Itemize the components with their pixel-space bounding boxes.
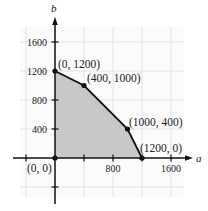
y-axis-label: b bbox=[51, 2, 57, 14]
x-tick-1600: 1600 bbox=[161, 163, 181, 174]
y-tick-1200: 1200 bbox=[27, 66, 47, 77]
label-1200-0: (1200, 0) bbox=[140, 142, 182, 155]
label-1000-400: (1000, 400) bbox=[129, 116, 183, 129]
y-tick-400: 400 bbox=[32, 124, 47, 135]
chart-svg: b a 1600 1200 800 400 800 1600 (0, 1200)… bbox=[0, 0, 208, 211]
y-tick-1600: 1600 bbox=[27, 37, 47, 48]
label-0-1200: (0, 1200) bbox=[58, 58, 100, 71]
feasible-region-chart: b a 1600 1200 800 400 800 1600 (0, 1200)… bbox=[0, 0, 208, 211]
x-axis-label: a bbox=[196, 152, 202, 164]
point-0-1200 bbox=[52, 68, 57, 73]
y-tick-800: 800 bbox=[32, 95, 47, 106]
point-1200-0 bbox=[139, 155, 144, 160]
y-axis-arrow-icon bbox=[52, 17, 58, 25]
label-0-0: (0, 0) bbox=[27, 162, 52, 175]
x-axis-arrow-icon bbox=[185, 155, 193, 161]
point-0-0 bbox=[52, 155, 57, 160]
point-400-1000 bbox=[81, 83, 86, 88]
x-tick-800: 800 bbox=[106, 163, 121, 174]
label-400-1000: (400, 1000) bbox=[87, 72, 141, 85]
